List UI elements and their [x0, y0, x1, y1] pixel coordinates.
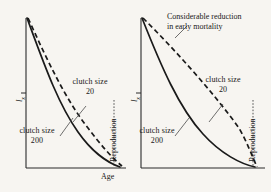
- series-label-line2: 20: [219, 85, 227, 94]
- series-label-clutch-200-left: clutch size 200: [9, 126, 65, 145]
- series-label-line1: clutch size: [72, 77, 107, 86]
- series-label-line2: 200: [31, 136, 43, 145]
- series-label-clutch-200-right: clutch size 200: [129, 126, 185, 145]
- series-label-line1: clutch size: [19, 126, 54, 135]
- panel-right: lx Reproduction Considerable reduction i…: [135, 0, 271, 192]
- series-label-clutch-20-left: clutch size 20: [62, 77, 118, 96]
- series-label-clutch-20-right: clutch size 20: [195, 75, 251, 94]
- y-axis-label-right: lx: [129, 97, 141, 102]
- y-axis-label-left: lx: [14, 97, 26, 102]
- reproduction-label-left: Reproduction: [109, 118, 118, 162]
- series-label-line2: 200: [151, 136, 163, 145]
- panel-left: lx Age Reproduction clutch size 20 clutc…: [0, 0, 136, 192]
- annotation-early-mortality: Considerable reduction in early mortalit…: [167, 12, 241, 32]
- series-label-line2: 20: [86, 87, 94, 96]
- annotation-line1: Considerable reduction: [167, 12, 241, 21]
- leader-clutch-20-right: [209, 104, 223, 122]
- reproduction-label-right: Reproduction: [248, 118, 257, 162]
- x-axis-label-left: Age: [101, 172, 114, 181]
- survivorship-figure: lx Age Reproduction clutch size 20 clutc…: [0, 0, 271, 192]
- annotation-line2: in early mortality: [167, 22, 223, 31]
- series-label-line1: clutch size: [139, 126, 174, 135]
- series-label-line1: clutch size: [205, 75, 240, 84]
